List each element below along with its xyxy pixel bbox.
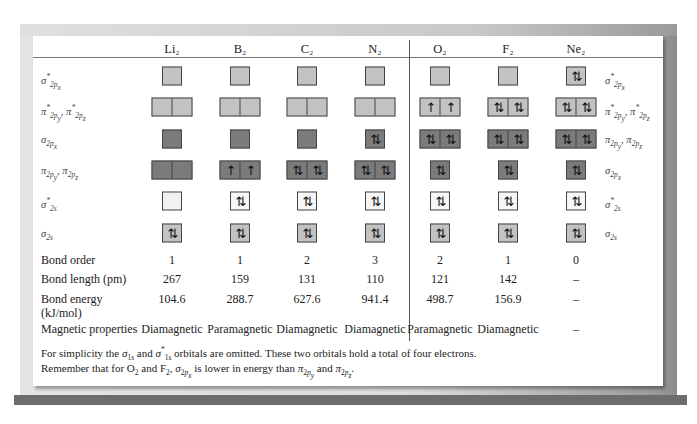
right-label-pi-2p: π2py, π2pz (605, 134, 642, 151)
mo-table-panel: Li₂ B₂ C₂ N₂ O₂ F₂ Ne₂ σ*2px π*2py, π*2p… (33, 36, 663, 386)
magnetic-value: Diamagnetic (344, 322, 405, 337)
label-sigma-2s: σ2s (41, 228, 53, 242)
bond-energy-value: 104.6 (159, 292, 186, 307)
bond-energy-unit: (kJ/mol) (41, 306, 82, 321)
label-pi-2p: π2py, π2pz (41, 165, 78, 182)
orbital-box: ⇅ (365, 192, 385, 211)
header-b2: B₂ (234, 42, 247, 57)
orbital-box (230, 67, 250, 86)
orbital-box: ⇅ (498, 161, 518, 180)
orbital-box: ⇅ (430, 161, 450, 180)
bond-order-value: 3 (372, 253, 378, 268)
bond-energy-value: 941.4 (362, 292, 389, 307)
bond-length-value: 142 (499, 272, 517, 287)
orbital-box-pair (287, 98, 328, 117)
right-label-sigma-2px: σ2px (605, 165, 621, 182)
orbital-box-pair: ⇅⇅ (488, 130, 529, 149)
header-o2: O₂ (433, 42, 446, 57)
header-ne2: Ne₂ (567, 42, 586, 57)
orbital-box: ⇅ (162, 224, 182, 243)
bond-length-value: 131 (298, 272, 316, 287)
orbital-box-pair (152, 98, 193, 117)
orbital-box: ⇅ (498, 224, 518, 243)
bond-energy-value: – (573, 292, 579, 307)
orbital-box (430, 67, 450, 86)
magnetic-value: – (573, 322, 579, 337)
label-sigma-star-2s: σ*2s (41, 196, 57, 213)
magnetic-value: Diamagnetic (477, 322, 538, 337)
orbital-box-pair (152, 161, 193, 180)
orbital-box (498, 67, 518, 86)
bond-length-label: Bond length (pm) (41, 272, 126, 287)
orbital-box (162, 67, 182, 86)
orbital-box (230, 130, 250, 149)
bond-order-value: 1 (237, 253, 243, 268)
orbital-box-pair: ⇅⇅ (287, 161, 328, 180)
orbital-box: ⇅ (365, 130, 385, 149)
right-label-sigma-star-2s: σ*2s (605, 196, 621, 213)
header-divider (33, 57, 663, 58)
label-sigma-2px: σ2px (41, 134, 57, 151)
orbital-box-pair: ↑↑ (420, 98, 461, 117)
orbital-box (162, 192, 182, 211)
label-pi-star-2p: π*2py, π*2pz (41, 103, 86, 122)
bottom-bar (14, 395, 687, 405)
orbital-box: ⇅ (430, 224, 450, 243)
bond-energy-value: 288.7 (227, 292, 254, 307)
orbital-box: ⇅ (566, 67, 586, 86)
orbital-box: ⇅ (297, 224, 317, 243)
orbital-box (297, 67, 317, 86)
orbital-box: ⇅ (230, 224, 250, 243)
bond-length-value: 110 (366, 272, 384, 287)
bond-energy-value: 498.7 (427, 292, 454, 307)
orbital-box (365, 67, 385, 86)
magnetic-properties-label: Magnetic properties (41, 322, 137, 337)
bond-order-value: 0 (573, 253, 579, 268)
label-sigma-star-2px: σ*2px (41, 72, 61, 91)
orbital-box (162, 130, 182, 149)
right-label-pi-star-2p: π*2py, π*2pz (605, 103, 650, 122)
header-f2: F₂ (502, 42, 513, 57)
right-label-sigma-2s: σ2s (605, 228, 617, 242)
orbital-box: ⇅ (566, 192, 586, 211)
column-divider (409, 40, 410, 341)
header-li2: Li₂ (164, 42, 179, 57)
orbital-box (297, 130, 317, 149)
frame-top-band (20, 24, 677, 36)
orbital-box: ⇅ (430, 192, 450, 211)
magnetic-value: Paramagnetic (207, 322, 272, 337)
orbital-box: ⇅ (297, 192, 317, 211)
orbital-box-pair: ⇅⇅ (488, 98, 529, 117)
footnote-1: For simplicity the σ1s and σ*1s orbitals… (41, 345, 477, 362)
orbital-box: ⇅ (566, 224, 586, 243)
orbital-box-pair: ⇅⇅ (420, 130, 461, 149)
bond-length-value: – (573, 272, 579, 287)
bond-order-value: 1 (505, 253, 511, 268)
orbital-box: ⇅ (365, 224, 385, 243)
magnetic-value: Diamagnetic (141, 322, 202, 337)
bond-length-value: 267 (163, 272, 181, 287)
orbital-box-pair: ↑↑ (220, 161, 261, 180)
orbital-box: ⇅ (230, 192, 250, 211)
bond-length-value: 159 (231, 272, 249, 287)
bond-energy-value: 627.6 (294, 292, 321, 307)
bond-energy-value: 156.9 (495, 292, 522, 307)
magnetic-value: Paramagnetic (407, 322, 472, 337)
bond-length-value: 121 (431, 272, 449, 287)
orbital-box-pair: ⇅⇅ (556, 130, 597, 149)
right-label-sigma-star-2px: σ*2px (605, 72, 625, 91)
magnetic-value: Diamagnetic (276, 322, 337, 337)
bond-order-value: 1 (169, 253, 175, 268)
bond-order-value: 2 (304, 253, 310, 268)
bond-order-value: 2 (437, 253, 443, 268)
orbital-box-pair (220, 98, 261, 117)
orbital-box: ⇅ (498, 192, 518, 211)
orbital-box-pair (355, 98, 396, 117)
orbital-box-pair: ⇅⇅ (556, 98, 597, 117)
bond-energy-label: Bond energy (41, 292, 102, 307)
orbital-box: ⇅ (566, 161, 586, 180)
bond-order-label: Bond order (41, 253, 95, 268)
header-c2: C₂ (301, 42, 314, 57)
header-n2: N₂ (368, 42, 381, 57)
footnote-2: Remember that for O2 and F2, σ2px is low… (41, 362, 354, 380)
